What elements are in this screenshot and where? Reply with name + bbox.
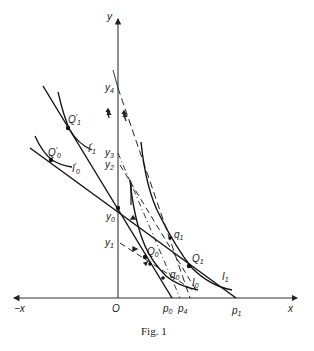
label-Q0: Q0 (147, 247, 159, 258)
budget-line-Q0prime-p1 (30, 148, 236, 298)
label-y1: y1 (105, 238, 114, 249)
curve-I0 (130, 180, 198, 290)
curve-I1 (141, 142, 232, 290)
label-p0: p0 (163, 304, 172, 315)
diagram-canvas (0, 0, 314, 351)
label-q0: q0 (170, 270, 179, 281)
x-axis-label: x (288, 304, 293, 314)
label-Q1: Q1 (192, 254, 204, 265)
point-q1 (168, 236, 172, 240)
label-p1: p1 (232, 306, 241, 317)
point-Q1 (187, 264, 191, 268)
label-y0: y0 (106, 212, 115, 223)
point-q0 (161, 276, 165, 280)
point-y0 (116, 206, 120, 210)
label-q1: q1 (174, 230, 183, 241)
dashed-line-y4-p4 (118, 88, 190, 298)
budget-line-Q1prime (43, 86, 172, 298)
points (49, 126, 191, 280)
label-I0prime: I′0 (72, 162, 80, 175)
point-Q0-lower (148, 262, 152, 266)
label-I1prime: I′1 (88, 142, 96, 155)
label-Q0prime: Q′0 (48, 146, 61, 159)
label-Q1prime: Q′1 (68, 113, 81, 126)
label-y2: y2 (105, 160, 114, 171)
figure-caption: Fig. 1 (141, 325, 167, 337)
origin-label: O (112, 304, 120, 314)
label-y3: y3 (105, 148, 114, 159)
point-Q1prime (66, 126, 70, 130)
label-y4: y4 (105, 83, 114, 94)
y-axis-label: y (107, 12, 112, 22)
label-p4: p4 (178, 304, 187, 315)
label-I1: I1 (222, 272, 229, 283)
label-I0: I0 (192, 278, 199, 289)
neg-x-axis-label: −x (14, 304, 25, 314)
